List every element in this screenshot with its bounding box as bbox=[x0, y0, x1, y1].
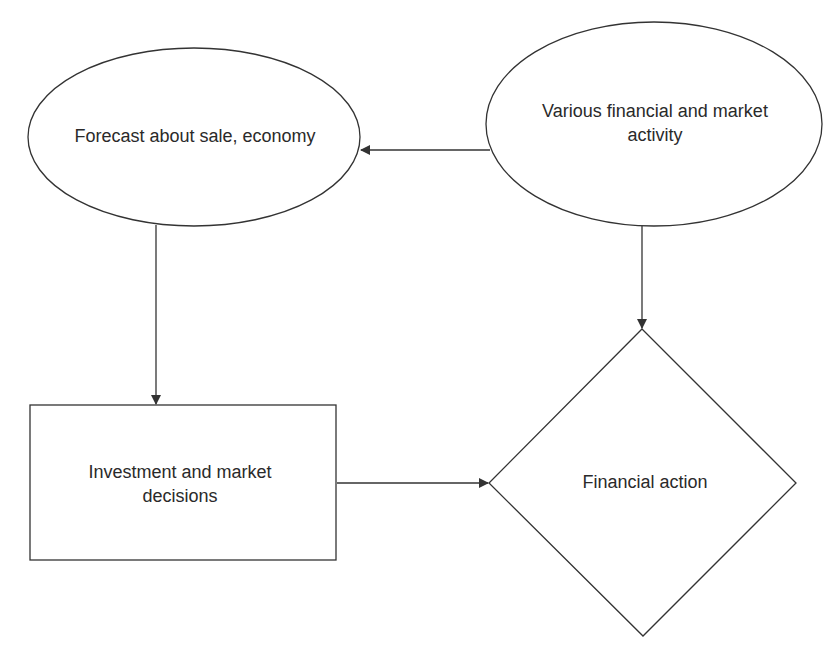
forecast-label: Forecast about sale, economy bbox=[40, 124, 350, 148]
action-label: Financial action bbox=[560, 470, 730, 494]
decisions-label: Investment and market decisions bbox=[60, 460, 300, 508]
activity-label: Various financial and market activity bbox=[515, 99, 795, 147]
